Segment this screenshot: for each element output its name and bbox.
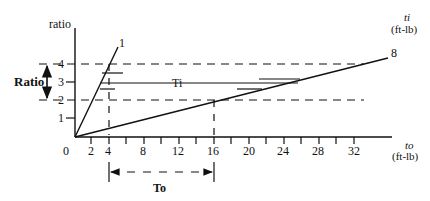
ratio-line-8-label: 8 [391,46,397,60]
y-axis-label: ratio [49,17,71,31]
x-axis-unit: (ft-lb) [392,150,419,163]
x-tick-32: 32 [348,144,360,158]
y-tick-1: 1 [58,111,64,125]
ratio-line-1-label: 1 [119,36,125,50]
x-tick-2: 2 [88,144,94,158]
x-tick-12: 12 [172,144,184,158]
x-tick-24: 24 [277,144,289,158]
y-tick-3: 3 [58,75,64,89]
x-tick-4: 4 [105,144,111,158]
x-tick-0: 0 [63,144,69,158]
x-tick-28: 28 [312,144,324,158]
ti-label: Ti [172,76,183,90]
x-tick-20: 20 [243,144,255,158]
ratio-line-8 [75,58,388,137]
ratio-label: Ratio [14,74,44,89]
torque-ratio-diagram: ratio 1 2 3 4 0 2 [0,0,430,201]
x-tick-16: 16 [207,144,219,158]
x-tick-8: 8 [140,144,146,158]
ti-axis-unit: (ft-lb) [391,23,418,36]
y-axis: ratio 1 2 3 4 [49,17,75,137]
ti-axis-symbol: ti [404,11,410,23]
x-axis: 0 2 4 8 12 16 20 24 28 32 to (ft-lb) [63,137,419,163]
ratio-line-1 [75,47,118,137]
to-label: To [153,181,166,195]
